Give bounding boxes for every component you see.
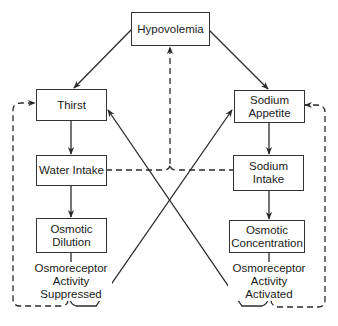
label-osmoreceptor-activated: Osmoreceptor Activity Activated (228, 262, 310, 301)
label-suppressed-line3: Suppressed (30, 288, 112, 301)
node-sodium-intake: Sodium Intake (233, 155, 304, 191)
node-water-intake: Water Intake (36, 155, 107, 186)
label-activated-line3: Activated (228, 288, 310, 301)
node-osmotic-concentration-line2: Concentration (231, 237, 303, 250)
node-hypovolemia: Hypovolemia (131, 12, 210, 46)
node-sodium-appetite-line1: Sodium (250, 94, 289, 107)
node-sodium-appetite-line2: Appetite (248, 107, 290, 120)
node-thirst-label: Thirst (57, 99, 86, 112)
label-osmoreceptor-suppressed: Osmoreceptor Activity Suppressed (30, 262, 112, 301)
node-osmotic-concentration-line1: Osmotic (246, 224, 288, 237)
node-sodium-appetite: Sodium Appetite (234, 90, 305, 123)
node-sodium-intake-line2: Intake (253, 173, 284, 186)
node-hypovolemia-label: Hypovolemia (137, 23, 203, 36)
arrow-hypovolemia-thirst (74, 30, 131, 88)
node-osmotic-dilution: Osmotic Dilution (36, 218, 107, 253)
dashed-intake-feedback (106, 164, 233, 170)
label-activated-line1: Osmoreceptor (228, 262, 310, 275)
node-osmotic-dilution-line1: Osmotic (50, 223, 92, 236)
label-suppressed-line1: Osmoreceptor (30, 262, 112, 275)
node-osmotic-dilution-line2: Dilution (52, 236, 90, 249)
node-osmotic-concentration: Osmotic Concentration (229, 220, 305, 253)
label-suppressed-line2: Activity (30, 275, 112, 288)
arrow-hypovolemia-sodium-appetite (209, 30, 268, 89)
label-activated-line2: Activity (228, 275, 310, 288)
node-water-intake-label: Water Intake (39, 164, 104, 177)
node-sodium-intake-line1: Sodium (249, 160, 288, 173)
node-thirst: Thirst (36, 89, 107, 121)
